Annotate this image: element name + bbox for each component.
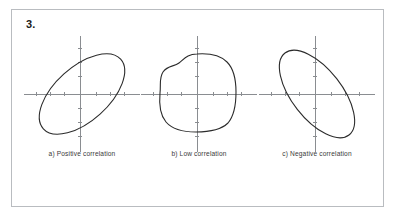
panel-low-correlation xyxy=(137,32,261,160)
panel-positive-correlation xyxy=(20,32,144,160)
caption-low-correlation: b) Low correlation xyxy=(137,150,261,157)
correlation-envelope-low xyxy=(160,54,236,132)
panel-negative-correlation xyxy=(255,32,379,160)
caption-negative-correlation: c) Negative correlation xyxy=(255,150,379,157)
figure-number-label: 3. xyxy=(26,18,36,30)
plot-negative-correlation xyxy=(255,32,379,160)
figure-frame: 3. xyxy=(11,9,384,207)
plot-low-correlation xyxy=(137,32,261,160)
caption-positive-correlation: a) Positive correlation xyxy=(20,150,144,157)
axes-negative xyxy=(259,36,375,152)
plot-positive-correlation xyxy=(20,32,144,160)
axes-positive xyxy=(24,36,140,152)
